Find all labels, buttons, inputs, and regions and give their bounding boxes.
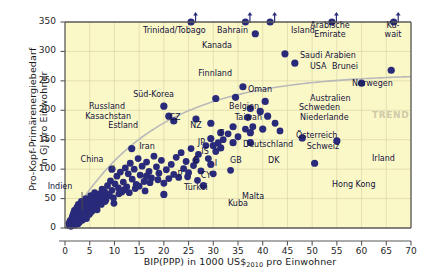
y-tick-label: 0 [0,222,56,232]
point-label: DK [268,157,279,166]
point-label: I [191,160,241,169]
x-axis-title-tail: pro Einwohner [263,256,336,267]
point-label: Deutschland [243,141,293,150]
y-tick-label: 50 [0,193,56,203]
point-label: CY [181,172,231,181]
point-label: Niederlande [300,114,349,123]
point-label: Finnland [0,70,232,79]
point-label: Irland [372,155,395,164]
point-label: Ku- wait [365,22,421,39]
x-axis-title: BIP(PPP) in 1000 US$2010 pro Einwohner [60,256,420,269]
point-label: Kanada [0,42,232,51]
point-label: Bahrain [0,27,248,36]
point-label: Österreich [296,132,337,141]
point-label: IS [180,148,230,157]
x-tick-label: 70 [391,246,423,256]
point-label: Norwegen [352,80,393,89]
chart-figure: Pro-Kopf-Primärenergiebedarf in GJ pro E… [0,0,423,276]
point-label: Belgien [0,103,259,112]
point-label: Iran [122,143,172,152]
y-tick-label: 100 [0,163,56,173]
point-label: Schweden [299,104,340,113]
y-tick-label: 350 [0,16,56,26]
point-label: Kuba [228,200,248,209]
point-label: Estland [0,122,138,131]
point-label: Schweiz [298,143,348,152]
point-label: Oman [248,86,272,95]
point-label: Arabische Emirate [302,22,358,39]
point-label: Indien [35,183,85,192]
x-axis-title-subscript: 2010 [246,261,263,269]
point-label: Süd-Korea [0,91,174,100]
point-label: China [67,156,117,165]
trend-annotation: TREND [372,110,409,120]
point-label: JP [0,139,205,148]
point-label: Saudi Arabien [300,52,356,61]
point-label: Türkei [184,184,208,193]
x-axis-title-main: BIP(PPP) in 1000 US$ [144,256,247,267]
point-label: Hong Kong [332,181,376,190]
